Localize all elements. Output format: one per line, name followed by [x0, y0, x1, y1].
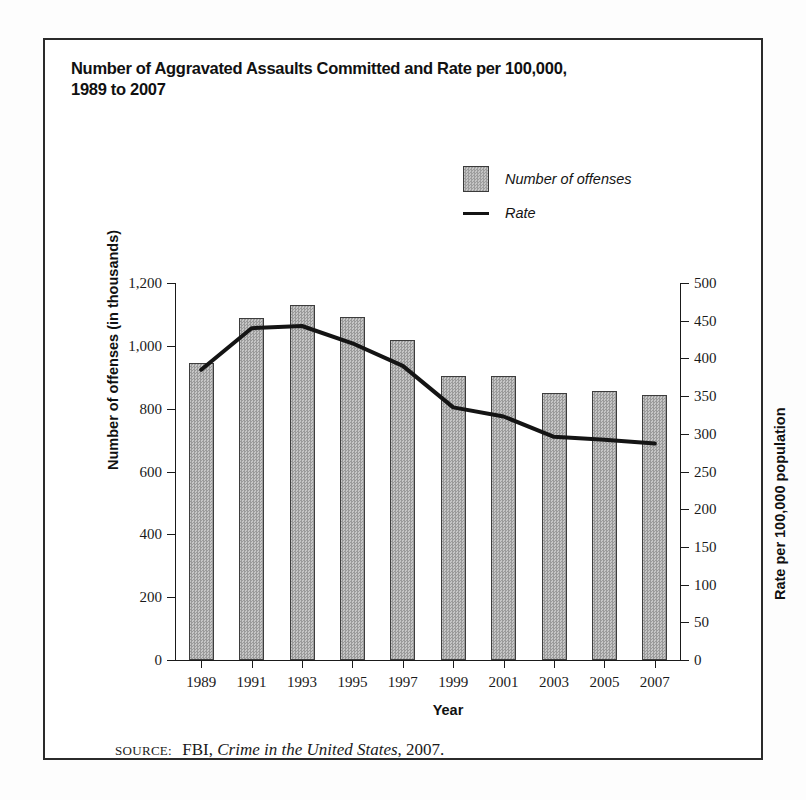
- x-tick-label: 1991: [237, 674, 267, 691]
- source-prefix: SOURCE:: [115, 743, 172, 758]
- y-axis-right-title: Rate per 100,000 population: [772, 407, 788, 600]
- y-tick-label-left: 1,200: [128, 275, 162, 292]
- chart-legend: Number of offenses Rate: [463, 162, 713, 230]
- x-tick-label: 1995: [337, 674, 367, 691]
- figure-frame: Number of Aggravated Assaults Committed …: [43, 38, 763, 760]
- x-tick-label: 2001: [489, 674, 519, 691]
- y-tick-left: [167, 346, 176, 347]
- y-tick-label-right: 400: [694, 350, 717, 367]
- x-tick: [252, 660, 253, 668]
- x-tick: [504, 660, 505, 668]
- y-tick-right: [680, 434, 689, 435]
- y-tick-left: [167, 283, 176, 284]
- source-note: SOURCE: FBI, Crime in the United States,…: [115, 740, 444, 760]
- x-tick: [604, 660, 605, 668]
- x-tick-label: 2003: [539, 674, 569, 691]
- y-tick-label-right: 500: [694, 275, 717, 292]
- x-tick: [352, 660, 353, 668]
- y-tick-right: [680, 358, 689, 359]
- y-tick-label-right: 350: [694, 388, 717, 405]
- plot-area: 02004006008001,0001,200 0501001502002503…: [176, 283, 680, 660]
- bar: [290, 305, 315, 660]
- y-tick-right: [680, 472, 689, 473]
- y-tick-label-right: 100: [694, 576, 717, 593]
- x-tick-label: 2007: [640, 674, 670, 691]
- x-tick: [655, 660, 656, 668]
- bar: [390, 340, 415, 660]
- bar-swatch-icon: [463, 166, 489, 192]
- y-tick-label-right: 450: [694, 312, 717, 329]
- bar: [491, 376, 516, 660]
- bar: [340, 317, 365, 660]
- x-tick-label: 1993: [287, 674, 317, 691]
- y-tick-label-left: 1,000: [128, 337, 162, 354]
- y-tick-right: [680, 660, 689, 661]
- x-tick-label: 2005: [589, 674, 619, 691]
- y-tick-right: [680, 547, 689, 548]
- line-swatch-icon: [463, 212, 489, 215]
- x-tick: [453, 660, 454, 668]
- legend-label-offenses: Number of offenses: [505, 171, 632, 187]
- y-tick-left: [167, 660, 176, 661]
- x-axis-title: Year: [45, 702, 806, 718]
- x-tick: [302, 660, 303, 668]
- source-publication: Crime in the United States: [217, 740, 397, 759]
- x-tick-label: 1999: [438, 674, 468, 691]
- y-tick-label-left: 600: [140, 463, 163, 480]
- bar: [441, 376, 466, 660]
- y-tick-label-right: 50: [694, 614, 709, 631]
- y-tick-right: [680, 321, 689, 322]
- bar: [239, 318, 264, 660]
- y-tick-label-right: 250: [694, 463, 717, 480]
- y-tick-right: [680, 585, 689, 586]
- bar: [642, 395, 667, 660]
- source-year: , 2007.: [398, 740, 445, 759]
- y-tick-left: [167, 597, 176, 598]
- x-tick: [554, 660, 555, 668]
- y-tick-label-left: 200: [140, 589, 163, 606]
- y-tick-label-left: 800: [140, 400, 163, 417]
- y-tick-left: [167, 472, 176, 473]
- y-tick-right: [680, 622, 689, 623]
- y-tick-label-left: 400: [140, 526, 163, 543]
- page-background: Number of Aggravated Assaults Committed …: [0, 0, 806, 800]
- page-title: Number of Aggravated Assaults Committed …: [71, 58, 711, 100]
- legend-item-offenses: Number of offenses: [463, 162, 713, 196]
- bar: [189, 363, 214, 660]
- y-tick-right: [680, 283, 689, 284]
- x-tick-label: 1997: [388, 674, 418, 691]
- bar: [542, 393, 567, 660]
- y-tick-label-left: 0: [155, 652, 163, 669]
- y-tick-label-right: 300: [694, 425, 717, 442]
- y-axis-left-title: Number of offenses (in thousands): [105, 230, 121, 470]
- x-tick-label: 1989: [186, 674, 216, 691]
- x-tick: [403, 660, 404, 668]
- y-tick-left: [167, 534, 176, 535]
- y-tick-label-right: 200: [694, 501, 717, 518]
- legend-item-rate: Rate: [463, 196, 713, 230]
- legend-label-rate: Rate: [505, 205, 536, 221]
- bar: [592, 391, 617, 660]
- y-tick-right: [680, 509, 689, 510]
- y-tick-label-right: 150: [694, 538, 717, 555]
- y-tick-label-right: 0: [694, 652, 702, 669]
- y-tick-left: [167, 409, 176, 410]
- y-tick-right: [680, 396, 689, 397]
- x-tick: [201, 660, 202, 668]
